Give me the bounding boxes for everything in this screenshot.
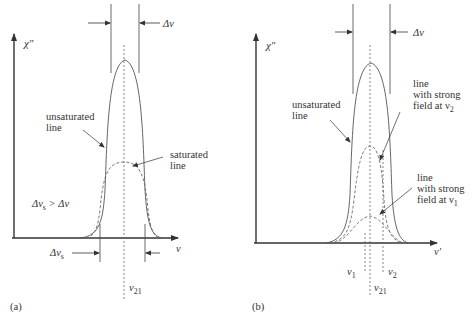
x-axis-label-b: ν′: [434, 246, 441, 257]
strong-v2-text: field at ν: [413, 100, 450, 111]
unsaturated-label-a-line2: line: [46, 122, 94, 133]
diagram-canvas: [0, 0, 473, 322]
panel-a: [12, 4, 178, 300]
saturated-label-a-line1: saturated: [170, 149, 208, 160]
caption-b: (b): [252, 301, 264, 312]
unsaturated-label-a-line1: unsaturated: [46, 111, 94, 122]
x-axis-label-a: ν: [176, 243, 181, 254]
unsaturated-curve-a: [80, 60, 162, 238]
unsaturated-label-a: unsaturated line: [46, 111, 94, 133]
unsaturated-pointer-b: [330, 120, 350, 142]
unsaturated-label-b: unsaturated line: [292, 99, 340, 121]
bottom-width-delta: Δν: [50, 247, 61, 258]
bottom-width-sub: s: [61, 252, 64, 261]
strong-v2-sub: 2: [450, 105, 454, 114]
strong-v1-line3: field at ν1: [417, 194, 465, 209]
y-axis-label-a: χ″: [24, 38, 33, 49]
strong-v2-line2: with strong: [413, 89, 461, 100]
center-sub-b: 21: [379, 287, 387, 296]
saturated-label-a-line2: line: [170, 160, 208, 171]
condition-delta: Δν: [32, 198, 43, 209]
center-label-a: ν21: [129, 282, 142, 297]
strong-v2-curve: [330, 146, 402, 243]
unsaturated-label-b-line1: unsaturated: [292, 99, 340, 110]
strong-v1-curve: [334, 216, 404, 243]
strong-v1-pointer: [380, 188, 412, 214]
y-axis-label-b: χ″: [266, 40, 275, 51]
condition-rest: > Δν: [46, 198, 69, 209]
top-width-label-a: Δν: [163, 18, 174, 29]
center-sub-a: 21: [134, 287, 142, 296]
saturated-pointer-a: [133, 157, 163, 166]
unsaturated-curve-b: [326, 63, 408, 243]
nu1-sub: 1: [352, 271, 356, 280]
unsaturated-label-b-line2: line: [292, 110, 340, 121]
condition-label-a: Δνs > Δν: [32, 198, 69, 213]
strong-v1-sub: 1: [454, 199, 458, 208]
strong-v1-label: line with strong field at ν1: [417, 172, 465, 209]
strong-v1-text: field at ν: [417, 194, 454, 205]
nu1-label: ν1: [347, 266, 356, 281]
strong-v2-line3: field at ν2: [413, 100, 461, 115]
saturated-curve-a: [86, 162, 160, 238]
nu2-sub: 2: [393, 271, 397, 280]
nu2-label: ν2: [388, 266, 397, 281]
strong-v2-label: line with strong field at ν2: [413, 78, 461, 115]
top-width-label-b: Δν: [413, 27, 424, 38]
strong-v1-line1: line: [417, 172, 465, 183]
strong-v2-line1: line: [413, 78, 461, 89]
panel-b: [254, 4, 437, 296]
caption-a: (a): [10, 301, 22, 312]
saturated-label-a: saturated line: [170, 149, 208, 171]
bottom-width-label-a: Δνs: [50, 247, 64, 262]
center-label-b: ν21: [374, 282, 387, 297]
strong-v1-line2: with strong: [417, 183, 465, 194]
